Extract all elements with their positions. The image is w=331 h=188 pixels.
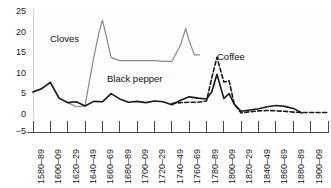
x-axis-tick-label: 1700–09 [141, 149, 150, 184]
y-axis-tick-label: 25 [2, 7, 26, 16]
x-axis-line-and-ticks [27, 121, 329, 132]
annotation-coffee: Coffee [217, 51, 245, 62]
x-axis-tick-label: 1580–89 [37, 149, 46, 184]
x-axis-tick-label: 1600–09 [54, 149, 63, 184]
y-axis-tick-label: 20 [2, 28, 26, 37]
x-axis-tick-label: 1620–29 [72, 149, 81, 184]
x-axis-tick-label: 1660–69 [106, 149, 115, 184]
y-axis-tick-label: 15 [2, 48, 26, 57]
x-axis-tick-label: 1740–49 [176, 149, 185, 184]
x-axis-tick-label: 1780–89 [211, 149, 220, 184]
x-axis-tick-label: 1760–69 [193, 149, 202, 184]
x-axis-tick-label: 1800–09 [228, 149, 237, 184]
y-axis-tick-label: −5 [2, 127, 26, 136]
x-axis-tick-label: 1820–29 [245, 149, 254, 184]
y-axis-tick-label: 0 [2, 110, 26, 119]
annotation-black-pepper: Black pepper [107, 73, 162, 84]
x-axis-tick-label: 1720–29 [158, 149, 167, 184]
x-axis-tick-label: 1680–89 [124, 149, 133, 184]
x-axis-tick-label: 1900–09 [315, 149, 324, 184]
y-axis-tick-label: 5 [2, 89, 26, 98]
chart-container: −50510152025 1580–891600–091620–291640–4… [0, 0, 331, 188]
x-axis-tick-label: 1840–49 [263, 149, 272, 184]
y-axis-tick-label: 10 [2, 69, 26, 78]
x-axis-tick-label: 1880–89 [297, 149, 306, 184]
annotation-cloves: Cloves [50, 33, 79, 44]
x-axis-tick-label: 1860–69 [280, 149, 289, 184]
x-axis-tick-label: 1640–49 [89, 149, 98, 184]
